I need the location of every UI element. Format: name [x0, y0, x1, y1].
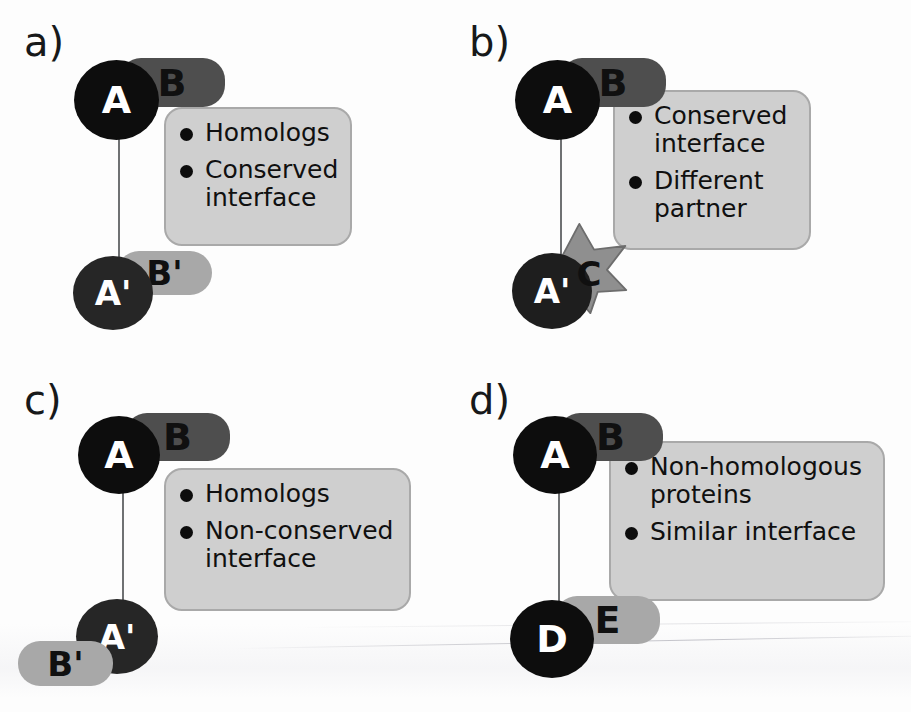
protein-interface-figure: a) Homologs Conserved interface B A [0, 0, 911, 712]
panel-d-callout: Non-homologous proteins Similar interfac… [609, 441, 885, 601]
panel-a-bullet-2-text: Conserved interface [205, 155, 338, 212]
panel-c-bullet-2: Non-conserved interface [180, 517, 397, 573]
panel-b-node-A-label: A [543, 81, 572, 119]
panel-d-node-D: D [510, 600, 594, 678]
panel-c-node-A: A [78, 416, 160, 494]
bullet-dot-icon [625, 462, 638, 475]
panel-c-bullet-1: Homologs [180, 480, 397, 508]
panel-c-node-A-label: A [104, 436, 133, 474]
panel-d-node-A: A [513, 416, 597, 494]
panel-a-node-A: A [74, 60, 159, 140]
bullet-dot-icon [180, 128, 193, 141]
panel-b-bullet-2-text: Different partner [654, 166, 764, 223]
panel-a-bullet-2: Conserved interface [180, 156, 338, 212]
panel-a-node-A-prime-label: A' [95, 276, 132, 310]
panel-a-node-B-label: B [158, 64, 187, 102]
bullet-dot-icon [629, 111, 642, 124]
bullet-dot-icon [180, 489, 193, 502]
panel-d-node-B-label: B [596, 418, 625, 456]
panel-a-node-A-label: A [102, 81, 131, 119]
panel-a-node-A-prime: A' [73, 256, 153, 330]
panel-c-callout: Homologs Non-conserved interface [164, 468, 411, 611]
bullet-dot-icon [625, 527, 638, 540]
panel-b-bullet-1-text: Conserved interface [654, 101, 787, 158]
panel-c-bullet-2-text: Non-conserved interface [205, 516, 393, 573]
panel-d-bullet-2: Similar interface [625, 518, 871, 546]
panel-d-node-E-label: E [595, 601, 621, 639]
panel-a-bullet-1: Homologs [180, 119, 338, 147]
panel-b: b) Conserved interface Different partner… [455, 0, 911, 356]
panel-b-node-A-prime-label: A' [534, 274, 571, 308]
panel-b-node-C-label: C [577, 257, 602, 291]
bullet-dot-icon [180, 526, 193, 539]
panel-a-bullet-1-text: Homologs [205, 118, 330, 147]
panel-c-bullet-list: Homologs Non-conserved interface [180, 480, 397, 573]
panel-d-label: d) [469, 380, 510, 420]
panel-c: c) Homologs Non-conserved interface B A [0, 356, 455, 712]
panel-d-node-D-label: D [536, 620, 568, 658]
panel-b-callout: Conserved interface Different partner [613, 90, 811, 250]
panel-b-node-B-label: B [599, 64, 628, 102]
panel-b-bullet-list: Conserved interface Different partner [629, 102, 797, 223]
panel-c-bullet-1-text: Homologs [205, 479, 330, 508]
panel-d: d) Non-homologous proteins Similar inter… [455, 356, 911, 712]
panel-a-label: a) [24, 22, 64, 62]
panel-a: a) Homologs Conserved interface B A [0, 0, 455, 356]
panel-b-bullet-2: Different partner [629, 167, 797, 223]
panel-a-connector-line [118, 132, 120, 264]
panel-d-bullet-1: Non-homologous proteins [625, 453, 871, 509]
panel-d-node-A-label: A [540, 436, 569, 474]
panel-c-label: c) [24, 380, 62, 420]
bullet-dot-icon [629, 176, 642, 189]
bullet-dot-icon [180, 165, 193, 178]
panel-d-bullet-2-text: Similar interface [650, 517, 856, 546]
panel-a-callout: Homologs Conserved interface [164, 107, 352, 246]
panel-c-node-B-label: B [163, 418, 192, 456]
panel-c-node-B-prime: B' [18, 641, 113, 686]
panel-c-connector-line [122, 488, 124, 602]
panel-a-bullet-list: Homologs Conserved interface [180, 119, 338, 212]
panel-b-node-A: A [515, 60, 600, 140]
panel-b-bullet-1: Conserved interface [629, 102, 797, 158]
panel-b-label: b) [469, 22, 510, 62]
panel-c-node-B-prime-label: B' [47, 647, 83, 681]
panel-d-bullet-list: Non-homologous proteins Similar interfac… [625, 453, 871, 546]
panel-d-bullet-1-text: Non-homologous proteins [650, 452, 862, 509]
